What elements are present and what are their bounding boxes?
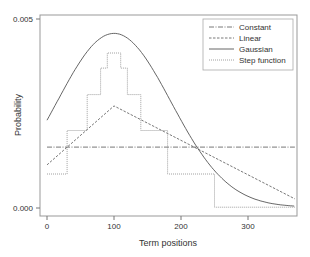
x-tick-label: 100	[107, 222, 121, 231]
y-tick-label: 0.000	[13, 204, 34, 213]
x-axis: 0 100 200 300 Term positions	[45, 216, 255, 248]
legend-label-gaussian: Gaussian	[239, 45, 273, 54]
x-tick-label: 200	[174, 222, 188, 231]
x-tick-label: 300	[241, 222, 255, 231]
legend-label-step-function: Step function	[239, 56, 286, 65]
probability-chart: 0.005 0.000 Probability 0 100 200 300 Te…	[0, 0, 310, 257]
y-tick-label: 0.005	[13, 15, 34, 24]
legend-label-linear: Linear	[239, 34, 262, 43]
y-axis-label: Probability	[13, 93, 23, 136]
x-tick-label: 0	[45, 222, 50, 231]
legend: Constant Linear Gaussian Step function	[203, 19, 293, 70]
x-axis-label: Term positions	[139, 238, 198, 248]
legend-label-constant: Constant	[239, 23, 272, 32]
y-axis: 0.005 0.000 Probability	[13, 15, 40, 213]
